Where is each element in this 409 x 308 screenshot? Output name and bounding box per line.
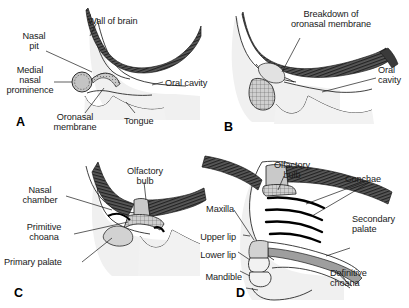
panel-letter-d: D — [236, 286, 245, 300]
maxilla-shape — [249, 241, 268, 260]
label-oronasal-membrane: Oronasal membrane — [42, 112, 108, 132]
label-definitive-choana: Definitive choana — [330, 268, 367, 288]
label-conchae: Conchae — [345, 174, 381, 184]
label-nasal-chamber: Nasal chamber — [12, 185, 68, 205]
panel-letter-b: B — [224, 120, 233, 134]
panel-letter-a: A — [16, 115, 25, 129]
label-nasal-pit: Nasal pit — [8, 31, 60, 51]
leader-secondary-palate — [326, 248, 350, 256]
leader-breakdown-oronasal-membrane — [282, 38, 300, 72]
panel-letter-c: C — [14, 286, 23, 300]
label-lower-lip: Lower lip — [180, 250, 236, 260]
label-oral-cavity-b: Oral cavity — [378, 65, 401, 85]
label-medial-nasal-prominence: Medial nasal prominence — [0, 65, 60, 95]
label-olfactory-bulb-c: Olfactory bulb — [116, 166, 174, 186]
label-secondary-palate: Secondary palate — [352, 214, 395, 234]
label-olfactory-bulb-d: Olfactory bulb — [266, 160, 318, 180]
label-wall-of-brain: Wall of brain — [88, 16, 137, 26]
label-primitive-choana: Primitive choana — [16, 222, 72, 242]
medial-nasal-prominence-shape — [72, 72, 92, 92]
label-primary-palate: Primary palate — [4, 257, 62, 267]
label-oral-cavity-a: Oral cavity — [165, 78, 207, 88]
concha-1 — [268, 197, 324, 208]
concha-3 — [266, 221, 322, 232]
label-breakdown-of-oronasal-membrane: Breakdown of oronasal membrane — [268, 9, 394, 29]
label-tongue: Tongue — [124, 116, 154, 126]
label-maxilla: Maxilla — [190, 204, 234, 214]
brain-band-d-left — [202, 156, 262, 190]
label-mandible: Mandible — [184, 272, 242, 282]
primary-palate-shape — [103, 226, 133, 246]
label-upper-lip: Upper lip — [180, 232, 236, 242]
concha-4 — [270, 233, 320, 242]
lower-lip-shape — [249, 272, 271, 287]
